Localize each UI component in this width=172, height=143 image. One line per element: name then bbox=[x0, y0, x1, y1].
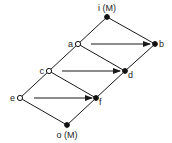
edge-i-b bbox=[107, 17, 155, 44]
edge-b-d bbox=[125, 44, 155, 71]
edge-a-d bbox=[78, 44, 125, 71]
edge-c-e bbox=[20, 71, 49, 98]
lattice-diagram: i (M)abcdefo (M) bbox=[0, 0, 172, 143]
edge-e-o bbox=[20, 98, 67, 125]
edge-c-f bbox=[49, 71, 96, 98]
label-a: a bbox=[68, 39, 73, 49]
edge-i-a bbox=[78, 17, 107, 44]
label-f: f bbox=[99, 97, 102, 107]
label-o: o (M) bbox=[57, 130, 78, 140]
node-i bbox=[105, 15, 110, 20]
node-f bbox=[94, 96, 99, 101]
edge-a-c bbox=[49, 44, 78, 71]
node-e bbox=[17, 95, 22, 100]
label-b: b bbox=[159, 39, 164, 49]
node-a bbox=[75, 41, 80, 46]
label-d: d bbox=[128, 70, 133, 80]
label-i: i (M) bbox=[98, 3, 116, 13]
node-o bbox=[65, 123, 70, 128]
node-c bbox=[46, 68, 51, 73]
label-e: e bbox=[10, 93, 15, 103]
edge-d-f bbox=[96, 71, 125, 98]
node-b bbox=[153, 42, 158, 47]
node-d bbox=[123, 69, 128, 74]
edge-f-o bbox=[67, 98, 96, 125]
label-c: c bbox=[40, 66, 45, 76]
